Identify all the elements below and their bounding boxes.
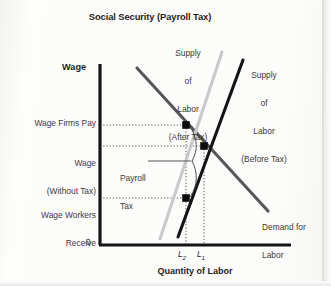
curve-label-supply-before-tax: Supply of Labor (Before Tax) (228, 52, 300, 184)
supply-after-tax-line-3: Labor (152, 105, 224, 114)
page-edge-bottom (0, 281, 331, 286)
demand-line-2: Labor (262, 251, 328, 260)
supply-after-tax-line-2: of (152, 77, 224, 86)
supply-before-tax-line-4: (Before Tax) (228, 155, 300, 164)
supply-before-tax-line-3: Labor (228, 127, 300, 136)
supply-before-tax-line-2: of (228, 99, 300, 108)
payroll-tax-line-2: Tax (120, 202, 166, 211)
y-axis-label: Wage (62, 62, 86, 72)
wage-workers-receive-line-2: Receive (18, 239, 96, 248)
payroll-tax-line-1: Payroll (120, 174, 166, 183)
y-tick-label-wage-workers-receive: Wage Workers Receive (18, 192, 96, 267)
supply-after-tax-line-1: Supply (152, 49, 224, 58)
l1-subscript: 1 (202, 254, 205, 261)
y-tick-label-wage-firms-pay: Wage Firms Pay (18, 119, 96, 128)
supply-after-tax-line-4: (After Tax) (152, 133, 224, 142)
l2-subscript: 2 (183, 254, 186, 261)
x-tick-label-l2: L2 (178, 250, 186, 262)
demand-line-1: Demand for (262, 223, 328, 232)
supply-before-tax-line-1: Supply (228, 71, 300, 80)
curve-label-supply-after-tax: Supply of Labor (After Tax) (152, 30, 224, 162)
wage-workers-receive-line-1: Wage Workers (18, 211, 96, 220)
point-wage-workers-receive (182, 194, 190, 202)
chart-title: Social Security (Payroll Tax) (0, 12, 300, 23)
wage-without-tax-line-1: Wage (10, 159, 96, 168)
x-tick-label-l1: L1 (197, 250, 205, 262)
annotation-payroll-tax: Payroll Tax (120, 155, 166, 230)
page-edge-right (322, 0, 331, 286)
curve-label-demand-for-labor: Demand for Labor (262, 204, 328, 279)
figure-page: Social Security (Payroll Tax) Wage Quant… (0, 0, 331, 286)
